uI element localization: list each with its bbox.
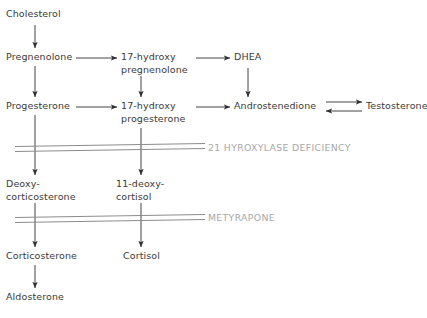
block-bar-21-hydroxylase	[15, 144, 205, 152]
node-progesterone: Progesterone	[6, 100, 70, 113]
node-deoxycorticosterone: Deoxy- corticosterone	[6, 178, 76, 203]
node-11-deoxycortisol: 11-deoxy- cortisol	[116, 178, 164, 203]
node-17-hydroxy-progesterone: 17-hydroxy progesterone	[121, 100, 186, 125]
block-bar-metyrapone	[15, 215, 205, 223]
block-label-metyrapone: METYRAPONE	[208, 212, 275, 223]
node-dhea: DHEA	[234, 51, 261, 64]
pathway-diagram: Cholesterol Pregnenolone Progesterone 17…	[0, 0, 427, 318]
node-17-hydroxy-pregnenolone: 17-hydroxy pregnenolone	[121, 51, 188, 76]
node-corticosterone: Corticosterone	[6, 250, 77, 263]
node-aldosterone: Aldosterone	[6, 291, 64, 304]
pathway-arrow-layer	[0, 0, 427, 318]
node-androstenedione: Androstenedione	[234, 100, 316, 113]
block-label-21-hydroxylase-deficiency: 21 HYROXYLASE DEFICIENCY	[208, 142, 351, 153]
node-cholesterol: Cholesterol	[6, 8, 61, 21]
node-pregnenolone: Pregnenolone	[6, 51, 72, 64]
node-cortisol: Cortisol	[123, 250, 160, 263]
node-testosterone: Testosterone	[366, 100, 427, 113]
